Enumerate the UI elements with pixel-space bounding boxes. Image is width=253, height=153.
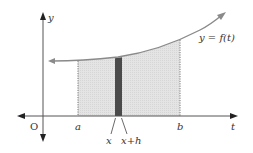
pointer-line-x-plus-h: [122, 118, 128, 134]
strip-x-to-x-plus-h: [115, 57, 122, 116]
t-axis-right-arrow-icon: [230, 113, 238, 119]
strip-label-x: x: [106, 135, 112, 146]
area-under-curve-diagram: y t O a b x x+h y = f(t): [0, 0, 253, 153]
pointer-line-x: [111, 118, 116, 134]
t-axis-label: t: [231, 121, 236, 132]
y-axis-down-arrow-icon: [40, 134, 46, 142]
strip-label-x-plus-h: x+h: [121, 135, 141, 146]
tick-label-a: a: [75, 121, 81, 132]
shaded-area-region: [78, 40, 180, 116]
curve-label: y = f(t): [198, 32, 235, 43]
t-axis-left-arrow-icon: [17, 113, 25, 119]
y-axis-up-arrow-icon: [40, 12, 46, 20]
y-axis-label: y: [47, 12, 54, 23]
origin-label: O: [30, 121, 38, 132]
curve-left-arrow-icon: [48, 58, 55, 64]
tick-label-b: b: [177, 121, 183, 132]
curve-f: [52, 15, 222, 61]
